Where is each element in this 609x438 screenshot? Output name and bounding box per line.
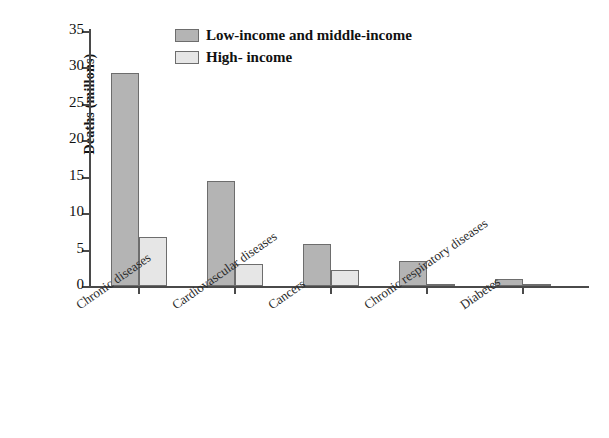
y-tick-label: 25 (69, 94, 84, 111)
bar-low-middle-income (111, 73, 139, 286)
y-tick-label: 5 (77, 240, 85, 257)
plot-area: 05101520253035 (89, 29, 589, 288)
y-tick-label: 15 (69, 167, 84, 184)
x-tick-mark (522, 288, 524, 294)
bar-high-income (427, 284, 455, 286)
y-tick-label: 0 (77, 276, 85, 293)
y-tick-label: 10 (69, 203, 84, 220)
x-tick-mark (426, 288, 428, 294)
bar-high-income (331, 270, 359, 286)
bar-low-middle-income (303, 244, 331, 286)
y-tick-label: 30 (69, 57, 84, 74)
x-tick-mark (138, 288, 140, 294)
y-axis-line (89, 29, 91, 288)
y-tick-label: 20 (69, 130, 84, 147)
x-axis-line (89, 286, 589, 288)
bar-chart: Deaths (millons) Low-income and middle-i… (0, 0, 609, 438)
x-tick-mark (234, 288, 236, 294)
y-tick-label: 35 (69, 21, 84, 38)
bar-high-income (523, 284, 551, 286)
x-tick-mark (330, 288, 332, 294)
